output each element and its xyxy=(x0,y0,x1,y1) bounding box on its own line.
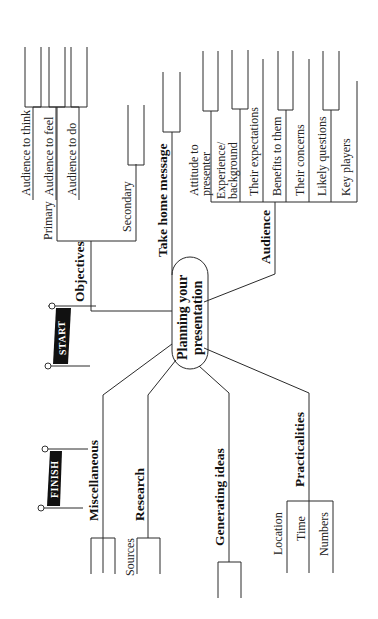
start-flag-icon: START xyxy=(45,303,96,369)
branch-generating-ideas: Generating ideas xyxy=(199,366,241,598)
branch-objectives: Objectives Primary Secondary Audience to… xyxy=(19,47,172,311)
research-label: Research xyxy=(132,468,147,521)
miscellaneous-label: Miscellaneous xyxy=(86,440,101,521)
objective-item: Audience to do xyxy=(65,123,79,196)
center-node: Planning your presentation xyxy=(172,257,208,369)
center-title-line2: presentation xyxy=(190,280,205,355)
audience-item: Key players xyxy=(339,138,353,196)
practicalities-label: Practicalities xyxy=(292,412,307,487)
branch-audience: Audience Attitude to presenter Experienc… xyxy=(187,50,357,302)
research-item: Sources xyxy=(123,538,137,576)
generating-ideas-label: Generating ideas xyxy=(212,448,227,546)
audience-item: background xyxy=(226,142,240,199)
branch-research: Research Sources xyxy=(123,360,176,576)
objective-item: Audience to feel xyxy=(42,116,56,196)
secondary-label: Secondary xyxy=(120,181,134,232)
finish-flag-label: FINISH xyxy=(49,461,60,498)
practicalities-item: Time xyxy=(294,516,308,541)
audience-item: Likely questions xyxy=(315,116,329,196)
finish-flag-icon: FINISH xyxy=(38,446,88,511)
audience-label: Audience xyxy=(258,210,273,264)
start-flag-label: START xyxy=(56,320,68,355)
center-title-line1: Planning your xyxy=(175,275,190,360)
audience-item: Benefits to them xyxy=(270,116,284,196)
audience-item: Their expectations xyxy=(247,107,261,196)
audience-item: Their concerns xyxy=(293,124,307,196)
branch-take-home: Take home message xyxy=(155,72,180,275)
mind-map: Planning your presentation Objectives Pr… xyxy=(0,0,378,619)
take-home-label: Take home message xyxy=(155,143,170,257)
practicalities-item: Location xyxy=(271,512,285,555)
objectives-label: Objectives xyxy=(72,241,87,302)
audience-item: presenter xyxy=(199,152,213,196)
primary-label: Primary xyxy=(41,201,55,240)
practicalities-item: Numbers xyxy=(317,512,331,556)
objective-item: Audience to think xyxy=(19,110,33,196)
